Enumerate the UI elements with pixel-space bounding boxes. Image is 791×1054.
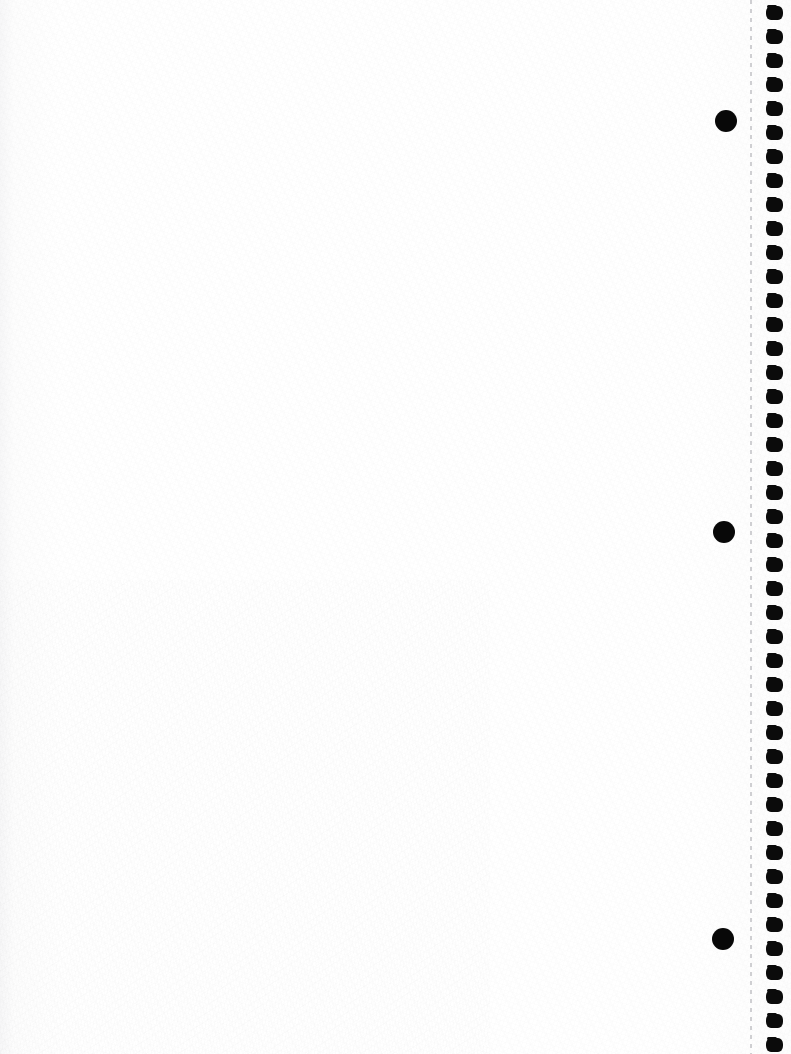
binding-hole <box>766 654 783 668</box>
paper-grain-texture-lower <box>0 580 490 1054</box>
binding-hole <box>766 318 783 332</box>
binding-hole <box>766 270 783 284</box>
binding-hole <box>766 558 783 572</box>
binding-hole <box>766 726 783 740</box>
binding-hole <box>766 462 783 476</box>
binding-hole <box>766 510 783 524</box>
binding-hole <box>766 174 783 188</box>
binding-hole <box>766 942 783 956</box>
binding-hole <box>766 894 783 908</box>
binding-hole <box>766 1038 783 1052</box>
binding-hole-column <box>766 0 787 1054</box>
binding-hole <box>766 198 783 212</box>
binding-hole <box>766 222 783 236</box>
binding-hole <box>766 822 783 836</box>
binding-hole <box>766 534 783 548</box>
binding-hole <box>766 606 783 620</box>
scanned-page <box>0 0 791 1054</box>
binding-hole <box>766 630 783 644</box>
binding-hole <box>766 366 783 380</box>
binding-hole <box>766 390 783 404</box>
binding-hole <box>766 54 783 68</box>
binding-hole <box>766 342 783 356</box>
binding-hole <box>766 750 783 764</box>
binding-hole <box>766 438 783 452</box>
ink-dot-middle <box>713 521 735 543</box>
binding-hole <box>766 774 783 788</box>
binding-hole <box>766 678 783 692</box>
ink-dot-top <box>715 110 737 132</box>
binding-hole <box>766 1014 783 1028</box>
binding-hole <box>766 78 783 92</box>
binding-hole <box>766 126 783 140</box>
perforation-line <box>750 0 752 1054</box>
binding-hole <box>766 702 783 716</box>
binding-hole <box>766 102 783 116</box>
binding-hole <box>766 918 783 932</box>
binding-hole <box>766 30 783 44</box>
binding-hole <box>766 582 783 596</box>
binding-hole <box>766 246 783 260</box>
binding-hole <box>766 870 783 884</box>
binding-hole <box>766 966 783 980</box>
binding-hole <box>766 414 783 428</box>
binding-hole <box>766 6 783 20</box>
binding-hole <box>766 846 783 860</box>
binding-hole <box>766 990 783 1004</box>
binding-hole <box>766 798 783 812</box>
ink-dot-bottom <box>712 928 734 950</box>
binding-hole <box>766 486 783 500</box>
binding-hole <box>766 294 783 308</box>
binding-hole <box>766 150 783 164</box>
